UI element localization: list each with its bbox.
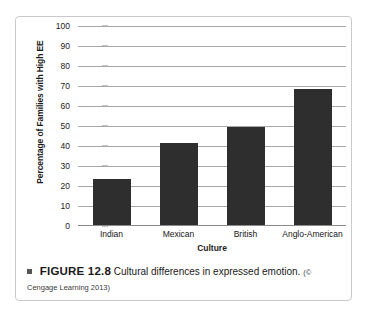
bar bbox=[93, 179, 131, 225]
plot-area bbox=[78, 26, 346, 226]
x-axis-line bbox=[78, 225, 346, 227]
x-axis-category-label: Anglo-American bbox=[279, 229, 346, 239]
x-axis-category-label: Indian bbox=[78, 229, 145, 239]
bar-chart: Percentage of Families with High EE 0102… bbox=[16, 17, 353, 247]
x-axis-category-label: Mexican bbox=[145, 229, 212, 239]
bar-slot bbox=[212, 25, 279, 225]
bar bbox=[227, 127, 265, 225]
y-axis-tick-label: 10 bbox=[46, 202, 70, 211]
bar-slot bbox=[78, 25, 145, 225]
bar-slot bbox=[279, 25, 346, 225]
x-axis-category-labels: IndianMexicanBritishAnglo-American bbox=[78, 229, 346, 239]
y-axis-tick-labels: 0102030405060708090100 bbox=[46, 26, 70, 226]
y-axis-title: Percentage of Families with High EE bbox=[35, 12, 45, 212]
figure-caption: FIGURE 12.8 Cultural differences in expr… bbox=[27, 264, 343, 295]
square-bullet-icon bbox=[27, 269, 32, 274]
figure-number-label: FIGURE 12.8 bbox=[40, 265, 111, 277]
bar bbox=[160, 143, 198, 225]
y-axis-tick-label: 50 bbox=[46, 122, 70, 131]
y-axis-tick-label: 70 bbox=[46, 82, 70, 91]
y-axis-tick-label: 60 bbox=[46, 102, 70, 111]
x-axis-category-label: British bbox=[212, 229, 279, 239]
bar bbox=[294, 89, 332, 225]
bar-slot bbox=[145, 25, 212, 225]
figure-frame: Percentage of Families with High EE 0102… bbox=[15, 16, 352, 301]
figure-caption-text: Cultural differences in expressed emotio… bbox=[114, 266, 301, 277]
y-axis-tick-label: 90 bbox=[46, 42, 70, 51]
y-axis-tick-label: 80 bbox=[46, 62, 70, 71]
x-axis-title: Culture bbox=[78, 243, 346, 253]
y-axis-tick-label: 100 bbox=[46, 22, 70, 31]
y-axis-tick-label: 30 bbox=[46, 162, 70, 171]
y-axis-tick-label: 0 bbox=[46, 222, 70, 231]
bar-series bbox=[78, 25, 346, 225]
y-axis-tick-label: 40 bbox=[46, 142, 70, 151]
y-axis-tick-label: 20 bbox=[46, 182, 70, 191]
